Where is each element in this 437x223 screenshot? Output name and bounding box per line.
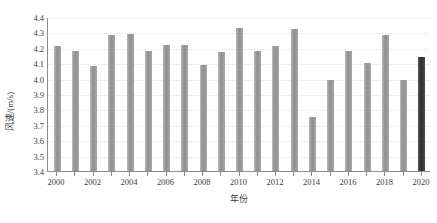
x-tick-mark <box>403 172 404 176</box>
bar <box>327 80 334 171</box>
x-tick-label: 2016 <box>339 177 356 187</box>
y-tick-label: 4.1 <box>33 60 44 69</box>
x-tick-mark <box>239 172 240 176</box>
x-tick-mark <box>166 172 167 176</box>
bar <box>163 45 170 171</box>
x-tick-mark <box>275 172 276 176</box>
x-axis-tick-labels: 2000200220042006200820102012201420162018… <box>47 177 430 191</box>
bar <box>72 51 79 171</box>
x-tick-mark <box>311 172 312 176</box>
bar <box>418 57 425 171</box>
bar <box>291 29 298 171</box>
y-axis-tick-labels: 4.44.34.24.14.03.93.83.73.63.53.4 <box>20 18 44 172</box>
y-tick-label: 3.4 <box>33 168 44 177</box>
y-tick-label: 4.0 <box>33 75 44 84</box>
x-tick-mark <box>56 172 57 176</box>
bar <box>309 117 316 171</box>
wind-speed-bar-chart: 风速/(m/s) 4.44.34.24.14.03.93.83.73.63.53… <box>0 0 437 223</box>
x-tick-label: 2004 <box>121 177 138 187</box>
x-tick-mark <box>366 172 367 176</box>
x-tick-mark <box>330 172 331 176</box>
y-tick-label: 3.6 <box>33 137 44 146</box>
plot-area <box>47 18 430 172</box>
x-tick-mark <box>384 172 385 176</box>
y-tick-label: 3.7 <box>33 122 44 131</box>
y-tick-label: 3.8 <box>33 106 44 115</box>
x-tick-mark <box>147 172 148 176</box>
bar <box>181 45 188 171</box>
x-tick-label: 2002 <box>84 177 101 187</box>
x-tick-mark <box>421 172 422 176</box>
y-axis-title: 风速/(m/s) <box>0 0 18 223</box>
bar <box>382 35 389 171</box>
bar <box>272 46 279 171</box>
x-tick-label: 2000 <box>48 177 65 187</box>
x-tick-label: 2014 <box>303 177 320 187</box>
x-tick-label: 2020 <box>412 177 429 187</box>
bar <box>54 46 61 171</box>
x-tick-mark <box>257 172 258 176</box>
bar <box>145 51 152 171</box>
x-tick-label: 2012 <box>266 177 283 187</box>
x-axis-title: 年份 <box>47 192 430 205</box>
bar <box>400 80 407 171</box>
y-tick-label: 3.9 <box>33 91 44 100</box>
bar <box>90 66 97 171</box>
bars-layer <box>48 18 430 171</box>
x-tick-mark <box>293 172 294 176</box>
bar <box>364 63 371 171</box>
y-tick-label: 4.3 <box>33 29 44 38</box>
x-tick-mark <box>93 172 94 176</box>
x-tick-label: 2008 <box>194 177 211 187</box>
y-tick-label: 4.2 <box>33 45 44 54</box>
bar <box>200 65 207 171</box>
bar <box>218 52 225 171</box>
x-tick-label: 2006 <box>157 177 174 187</box>
bar <box>254 51 261 171</box>
bar <box>236 28 243 171</box>
x-tick-label: 2010 <box>230 177 247 187</box>
x-tick-label: 2018 <box>376 177 393 187</box>
bar <box>345 51 352 171</box>
y-tick-label: 4.4 <box>33 14 44 23</box>
x-tick-mark <box>348 172 349 176</box>
x-tick-mark <box>184 172 185 176</box>
x-tick-mark <box>220 172 221 176</box>
x-tick-mark <box>202 172 203 176</box>
x-tick-mark <box>74 172 75 176</box>
y-tick-label: 3.5 <box>33 152 44 161</box>
bar <box>108 35 115 171</box>
bar <box>127 34 134 171</box>
x-tick-mark <box>129 172 130 176</box>
x-tick-mark <box>111 172 112 176</box>
